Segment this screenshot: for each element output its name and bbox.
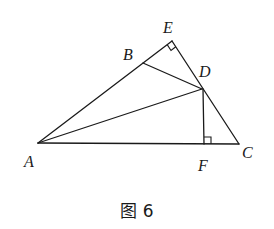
segment-BD: [143, 63, 202, 89]
point-label-A: A: [23, 153, 34, 170]
segment-AE: [38, 41, 172, 143]
geometry-figure: E B D A F C 图 6: [0, 0, 274, 229]
point-label-B: B: [123, 46, 133, 63]
point-label-C: C: [242, 144, 253, 161]
point-label-F: F: [197, 157, 208, 174]
segment-EC: [172, 41, 239, 144]
figure-caption: 图 6: [120, 201, 153, 221]
point-label-E: E: [162, 19, 173, 36]
segment-DF: [203, 89, 204, 144]
segment-AD: [38, 89, 202, 143]
segment-AC: [38, 143, 239, 144]
right-angle-marker-F: [204, 137, 211, 144]
point-label-D: D: [198, 63, 211, 80]
